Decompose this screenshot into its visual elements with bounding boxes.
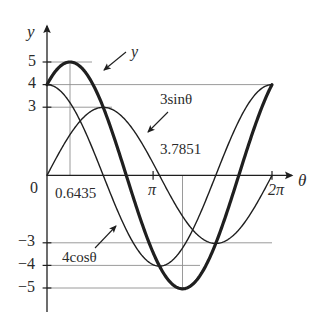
y-axis-label: y [27, 23, 35, 40]
max-theta-label: 0.6435 [55, 186, 96, 201]
y-tick-label-3: 3 [28, 98, 36, 114]
x-tick-label-pi: π [148, 182, 156, 198]
y-tick-label-5: 5 [28, 53, 36, 69]
min-theta-label: 3.7851 [160, 142, 201, 157]
function-graph-figure: y θ 0 5 4 3 −3 −4 −5 π 2π 0.6435 3.7851 … [0, 0, 322, 328]
axes [43, 26, 292, 312]
x-axis-label: θ [298, 172, 306, 189]
leader-4cos [95, 226, 116, 248]
y-tick-label-minus-3: −3 [18, 233, 35, 249]
plot-canvas [0, 0, 322, 328]
y-tick-label-4: 4 [28, 75, 36, 91]
resultant-curve-label: y [131, 44, 138, 60]
cosine-curve-label: 4cosθ [62, 250, 97, 265]
sine-curve-label: 3sinθ [160, 92, 192, 107]
leader-lines [95, 52, 168, 248]
leader-y [104, 52, 126, 70]
origin-label: 0 [30, 180, 38, 196]
y-tick-label-minus-4: −4 [18, 256, 35, 272]
x-tick-label-2pi: 2π [268, 182, 284, 198]
leader-3sin [148, 112, 168, 132]
y-tick-label-minus-5: −5 [18, 279, 35, 295]
